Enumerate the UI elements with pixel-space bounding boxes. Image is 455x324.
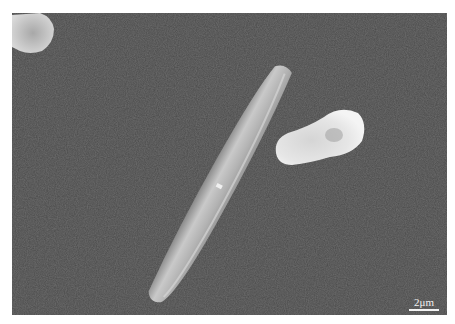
scale-bar-label: 2μm	[409, 297, 439, 308]
scale-bar: 2μm	[409, 297, 439, 311]
sem-scene	[12, 13, 447, 315]
sem-image: 2μm	[12, 13, 447, 315]
scale-bar-line	[409, 309, 439, 311]
